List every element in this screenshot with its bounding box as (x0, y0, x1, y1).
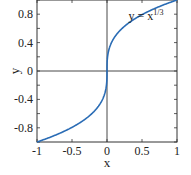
y-tick-label: -0.4 (14, 92, 33, 106)
annotation-exponent: 1/3 (153, 8, 163, 17)
y-axis-label: y (7, 67, 22, 74)
x-tick-label: 0.5 (135, 144, 150, 158)
x-tick-label: -1 (32, 144, 42, 158)
x-axis-label: x (104, 155, 111, 170)
y-tick-label: -0.8 (14, 121, 33, 135)
x-tick-label: 1 (174, 144, 180, 158)
y-tick-label: 0.4 (18, 36, 33, 50)
y-tick-label: 0 (27, 64, 33, 78)
x-tick-label: -0.5 (63, 144, 82, 158)
curve-annotation: y = x1/3 (129, 8, 164, 23)
y-tick-label: 0.8 (18, 7, 33, 21)
cube-root-chart: -1-0.500.51 -0.8-0.400.40.8 y = x1/3 x y (0, 0, 191, 175)
annotation-base: y = x (129, 9, 154, 23)
